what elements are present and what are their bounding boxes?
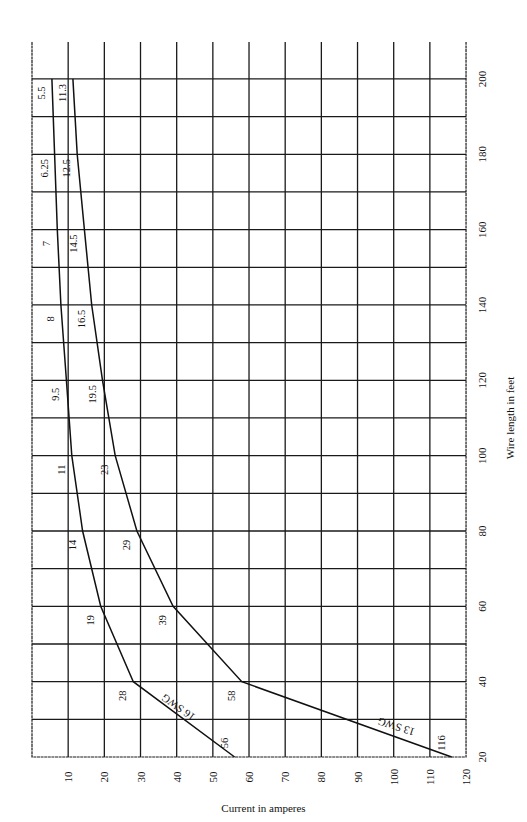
y-tick-label: 120 [476, 372, 488, 389]
x-tick-label: 110 [424, 768, 436, 785]
y-axis-title: Wire length in feet [504, 377, 516, 459]
x-tick-label: 50 [207, 771, 219, 783]
x-tick-label: 100 [388, 768, 400, 785]
point-label: 29 [121, 540, 132, 551]
y-tick-label: 80 [476, 525, 488, 537]
x-tick-label: 10 [62, 771, 74, 783]
y-tick-label: 160 [476, 221, 488, 238]
x-axis-title: Current in amperes [0, 802, 527, 814]
point-label: 19.5 [87, 385, 98, 403]
y-tick-label: 40 [476, 676, 488, 688]
y-tick-label: 140 [476, 296, 488, 313]
point-label: 14.5 [68, 234, 79, 252]
point-label: 11.3 [57, 84, 68, 102]
x-tick-label: 60 [243, 771, 255, 783]
point-label: 12.5 [61, 159, 72, 177]
x-tick-label: 70 [279, 771, 291, 783]
point-label: 5.5 [36, 86, 47, 99]
x-tick-label: 80 [315, 771, 327, 783]
point-label: 39 [157, 615, 168, 626]
y-tick-label: 100 [476, 447, 488, 464]
point-label: 14 [67, 539, 78, 550]
point-label: 9.5 [50, 388, 61, 401]
x-tick-label: 40 [171, 771, 183, 783]
wire-length-chart: 1020304050607080901001101202040608010012… [0, 0, 527, 822]
point-label: 116 [436, 735, 447, 750]
point-label: 16.5 [76, 310, 87, 328]
series-label-16-swg: 16 SWG [159, 692, 197, 724]
point-label: 19 [85, 615, 96, 626]
x-tick-label: 90 [352, 771, 364, 783]
point-label: 58 [226, 690, 237, 701]
x-tick-label: 20 [98, 771, 110, 783]
point-label: 6.25 [39, 159, 50, 177]
point-label: 7 [41, 241, 52, 246]
y-tick-label: 180 [476, 146, 488, 163]
y-tick-label: 20 [476, 751, 488, 763]
y-tick-label: 200 [476, 70, 488, 87]
point-label: 23 [99, 464, 110, 475]
point-label: 28 [117, 690, 128, 701]
point-label: 11 [56, 465, 67, 475]
point-label: 8 [45, 316, 56, 321]
y-tick-label: 60 [476, 600, 488, 612]
point-label: 56 [219, 738, 230, 749]
x-tick-label: 30 [135, 771, 147, 783]
x-tick-label: 120 [460, 768, 472, 785]
